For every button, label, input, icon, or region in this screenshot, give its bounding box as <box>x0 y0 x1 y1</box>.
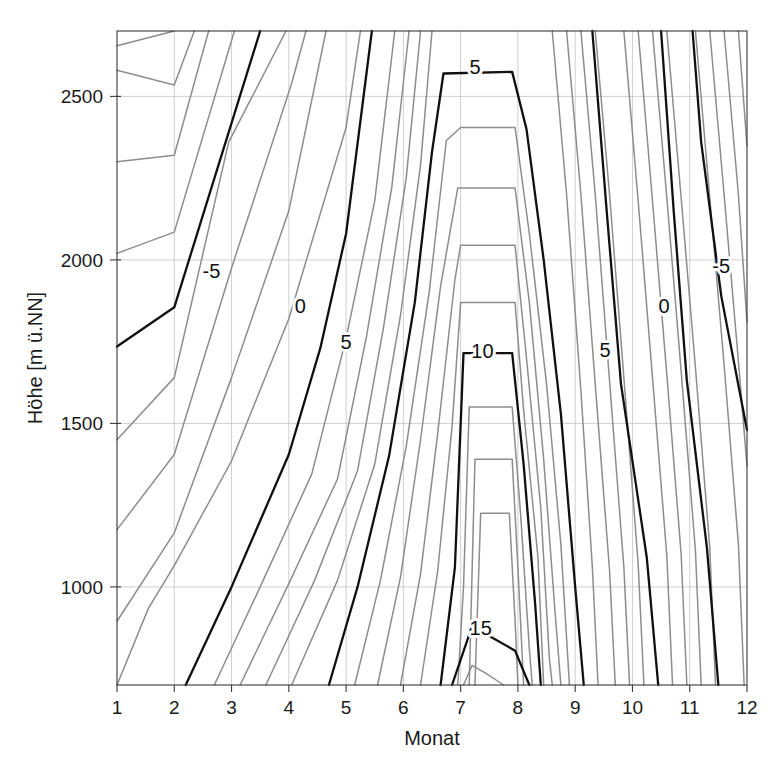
x-axis-ticks <box>117 685 747 692</box>
x-tick-label: 10 <box>622 697 643 718</box>
contour-line-minor <box>117 31 194 85</box>
contour-label: -5 <box>203 260 221 282</box>
contour-label: 10 <box>471 340 493 362</box>
x-tick-label: 8 <box>513 697 524 718</box>
y-tick-label: 2500 <box>61 86 103 107</box>
x-tick-label: 7 <box>455 697 466 718</box>
x-tick-label: 5 <box>341 697 352 718</box>
y-axis-ticks <box>110 96 121 587</box>
contour-label: 0 <box>295 295 306 317</box>
y-tick-label: 2000 <box>61 250 103 271</box>
y-axis-tick-labels: 1000150020002500 <box>61 86 103 598</box>
x-axis-tick-labels: 123456789101112 <box>112 697 758 718</box>
y-tick-label: 1000 <box>61 577 103 598</box>
x-tick-label: 1 <box>112 697 123 718</box>
contour-plot-figure: -5055101550-5 123456789101112 1000150020… <box>0 0 784 770</box>
contour-line-major <box>117 31 260 347</box>
contour-label: 5 <box>341 331 352 353</box>
x-tick-label: 11 <box>680 697 700 718</box>
contour-line-minor <box>475 513 518 685</box>
contour-label: 0 <box>658 295 669 317</box>
contour-label: 15 <box>470 617 492 639</box>
x-tick-label: 9 <box>570 697 581 718</box>
grid-layer <box>117 31 747 685</box>
contour-label: 5 <box>469 56 480 78</box>
horizontal-gridlines <box>117 96 747 587</box>
contour-label: 5 <box>599 339 610 361</box>
y-axis-title: Höhe [m ü.NN] <box>24 292 46 424</box>
contour-line-minor <box>724 31 747 322</box>
x-axis-title: Monat <box>404 727 460 749</box>
x-tick-label: 3 <box>226 697 237 718</box>
contour-plot-svg: -5055101550-5 123456789101112 1000150020… <box>0 0 784 770</box>
contour-level-labels: -5055101550-5 <box>203 56 730 639</box>
contour-line-minor <box>117 31 174 46</box>
contour-line-minor <box>117 31 286 440</box>
x-tick-label: 2 <box>169 697 180 718</box>
contour-line-minor <box>738 31 747 145</box>
contour-line-minor <box>117 31 234 253</box>
x-tick-label: 4 <box>284 697 295 718</box>
contour-label: -5 <box>712 255 730 277</box>
y-tick-label: 1500 <box>61 413 103 434</box>
x-tick-label: 12 <box>736 697 757 718</box>
x-tick-label: 6 <box>398 697 409 718</box>
